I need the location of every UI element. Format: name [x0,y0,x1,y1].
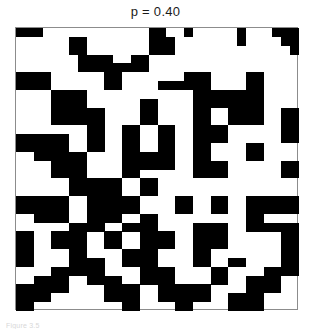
lattice-cell [175,302,184,311]
lattice-cell [193,249,202,258]
lattice-cell [87,276,96,285]
lattice-cell [96,276,105,285]
lattice-cell [255,99,264,108]
lattice-cell [290,161,299,170]
lattice-cell [237,258,246,267]
lattice-cell [122,284,131,293]
lattice-cell [16,258,25,267]
lattice-cell [255,276,264,285]
lattice-cell [246,205,255,214]
lattice-cell [104,293,113,302]
lattice-cell [43,196,52,205]
lattice-cell [237,90,246,99]
lattice-cell [69,187,78,196]
lattice-cell [149,231,158,240]
lattice-cell [69,178,78,187]
lattice-cell [140,249,149,258]
lattice-cell [246,108,255,117]
lattice-cell [87,143,96,152]
lattice-cell [104,231,113,240]
lattice-cell [87,258,96,267]
lattice-cell [51,134,60,143]
lattice-cell [60,267,69,276]
lattice-cell [104,205,113,214]
lattice-cell [193,170,202,179]
lattice-cell [78,223,87,232]
lattice-cell [166,125,175,134]
lattice-cell [122,258,131,267]
lattice-cell [193,293,202,302]
lattice-cell [25,240,34,249]
lattice-cell [202,293,211,302]
lattice-cell [255,284,264,293]
lattice-cell [202,223,211,232]
lattice-cell [211,196,220,205]
lattice-cell [25,81,34,90]
lattice-cell [175,205,184,214]
lattice-cell [166,231,175,240]
lattice-cell [237,108,246,117]
lattice-cell [78,46,87,55]
lattice-cell [290,249,299,258]
lattice-cell [166,46,175,55]
lattice-cell [25,231,34,240]
lattice-cell [69,152,78,161]
lattice-cell [290,108,299,117]
lattice-cell [78,55,87,64]
lattice-cell [69,240,78,249]
lattice-cell [122,134,131,143]
lattice-cell [202,284,211,293]
lattice-cell [149,46,158,55]
lattice-cell [219,205,228,214]
lattice-cell [51,284,60,293]
lattice-cell [34,143,43,152]
lattice-cell [16,81,25,90]
lattice-cell [140,276,149,285]
lattice-cell [96,143,105,152]
lattice-cell [69,161,78,170]
lattice-cell [60,231,69,240]
lattice-cell [228,302,237,311]
lattice-cell [184,284,193,293]
lattice-cell [219,90,228,99]
lattice-cell [264,223,273,232]
lattice-cell [34,205,43,214]
lattice-cell [113,240,122,249]
lattice-cell [149,258,158,267]
lattice-cell [193,99,202,108]
lattice-cell [246,116,255,125]
lattice-cell [202,134,211,143]
lattice-cell [78,187,87,196]
lattice-cell [264,205,273,214]
lattice-cell [255,205,264,214]
lattice-cell [202,161,211,170]
lattice-cell [131,161,140,170]
lattice-cell [43,143,52,152]
lattice-cell [140,108,149,117]
lattice-cell [175,284,184,293]
lattice-cell [219,170,228,179]
lattice-cell [202,170,211,179]
lattice-cell [78,37,87,46]
lattice-cell [193,81,202,90]
lattice-cell [87,63,96,72]
lattice-cell [246,99,255,108]
lattice-cell [104,276,113,285]
lattice-cell [25,205,34,214]
lattice-cell [166,37,175,46]
lattice-cell [219,125,228,134]
lattice-cell [281,267,290,276]
lattice-cell [211,134,220,143]
lattice-cell [255,81,264,90]
lattice-cell [60,99,69,108]
lattice-cell [184,72,193,81]
lattice-cell [122,152,131,161]
lattice-cell [158,46,167,55]
lattice-cell [246,90,255,99]
lattice-cell [51,267,60,276]
lattice-cell [290,223,299,232]
lattice-cell [96,258,105,267]
lattice-cell [290,28,299,37]
lattice-cell [166,276,175,285]
lattice-cell [87,178,96,187]
